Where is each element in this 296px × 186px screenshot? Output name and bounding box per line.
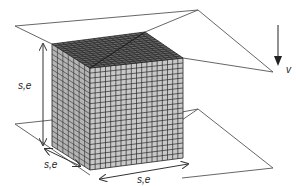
velocity-arrow: v	[274, 25, 292, 75]
height-dimension: s,e	[18, 44, 43, 145]
velocity-label: v	[286, 64, 292, 75]
cube-diagram: s,e s,e s,e v	[0, 0, 296, 186]
depth-label: s,e	[44, 159, 58, 170]
cube	[52, 32, 183, 170]
height-label: s,e	[18, 80, 32, 91]
arrow-down-icon	[274, 56, 282, 66]
width-label: s,e	[137, 174, 151, 185]
